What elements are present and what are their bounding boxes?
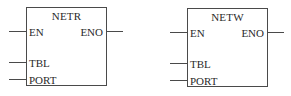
netw-block-title: NETW — [188, 11, 267, 23]
netw-en-pin-label: EN — [190, 27, 205, 39]
netr-port-wire — [9, 79, 26, 80]
netr-eno-wire — [107, 31, 123, 32]
netr-block-title: NETR — [27, 10, 106, 22]
netr-tbl-pin-label: TBL — [29, 57, 50, 69]
netw-port-wire — [170, 80, 187, 81]
netr-eno-pin-label: ENO — [80, 26, 103, 38]
netr-tbl-wire — [9, 62, 26, 63]
netw-tbl-wire — [170, 63, 187, 64]
netw-block: NETW EN ENO TBL PORT — [187, 8, 268, 87]
netw-eno-wire — [268, 32, 284, 33]
netr-port-pin-label: PORT — [29, 74, 56, 86]
netw-port-pin-label: PORT — [190, 75, 217, 87]
netw-en-wire — [170, 32, 187, 33]
netr-en-wire — [9, 31, 26, 32]
netw-eno-pin-label: ENO — [241, 27, 264, 39]
netr-block: NETR EN ENO TBL PORT — [26, 7, 107, 86]
netw-tbl-pin-label: TBL — [190, 58, 211, 70]
netr-en-pin-label: EN — [29, 26, 44, 38]
